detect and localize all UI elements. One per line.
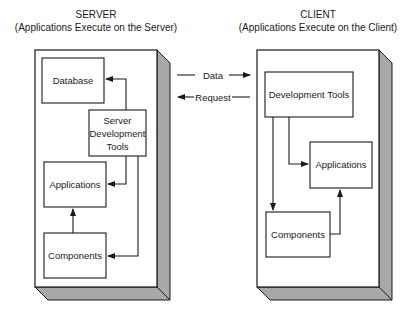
server-components-label: Components xyxy=(48,250,102,261)
architecture-diagram: SERVER (Applications Execute on the Serv… xyxy=(0,0,412,324)
client-components-label: Components xyxy=(271,229,325,240)
server-dev-tools-box: Server Development Tools xyxy=(89,110,146,156)
server-applications-label: Applications xyxy=(49,179,100,190)
client-dev-tools-box: Development Tools xyxy=(265,72,353,117)
data-link: Data xyxy=(177,70,250,81)
client-applications-box: Applications xyxy=(310,142,372,188)
server-applications-box: Applications xyxy=(44,162,106,207)
server-subtitle: (Applications Execute on the Server) xyxy=(15,22,177,33)
client-applications-label: Applications xyxy=(315,159,366,170)
client-dev-tools-label: Development Tools xyxy=(269,89,350,100)
data-label: Data xyxy=(203,70,224,81)
server-components-box: Components xyxy=(44,233,106,278)
request-link: Request xyxy=(178,92,250,103)
request-label: Request xyxy=(195,92,231,103)
server-dev-tools-line1: Server xyxy=(104,115,132,126)
server-dev-tools-line3: Tools xyxy=(106,141,128,152)
client-subtitle: (Applications Execute on the Client) xyxy=(239,22,397,33)
server-database-box: Database xyxy=(42,58,104,103)
server-dev-tools-line2: Development xyxy=(90,128,146,139)
client-components-box: Components xyxy=(266,212,330,257)
server-title: SERVER xyxy=(76,9,117,20)
client-title: CLIENT xyxy=(300,9,336,20)
server-database-label: Database xyxy=(53,75,94,86)
